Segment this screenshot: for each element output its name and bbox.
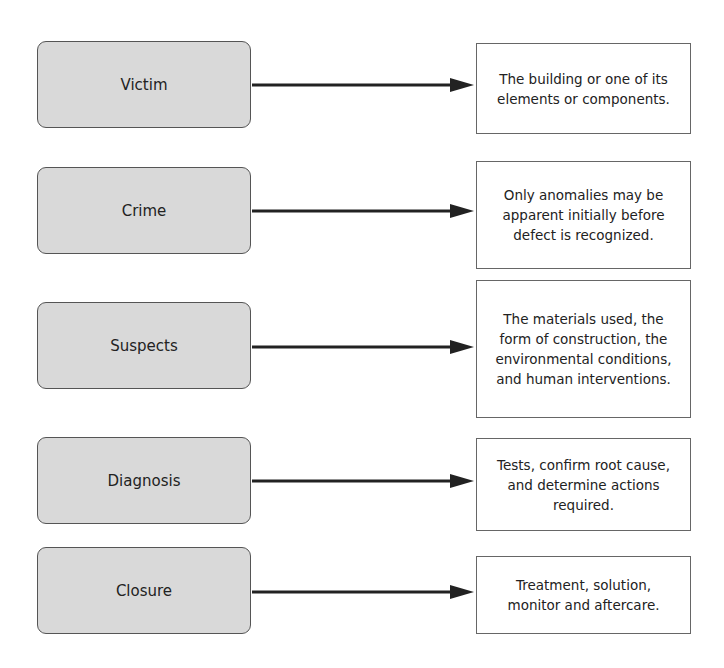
stage-box-victim: Victim bbox=[37, 41, 251, 128]
stage-box-crime: Crime bbox=[37, 167, 251, 254]
stage-box-closure: Closure bbox=[37, 547, 251, 634]
description-text: The materials used, the form of construc… bbox=[489, 309, 678, 389]
arrow-icon bbox=[252, 78, 474, 92]
description-text: Treatment, solution, monitor and afterca… bbox=[489, 575, 678, 615]
arrow-icon bbox=[252, 340, 474, 354]
description-box-victim: The building or one of its elements or c… bbox=[476, 43, 691, 134]
description-text: Only anomalies may be apparent initially… bbox=[489, 185, 678, 245]
description-box-suspects: The materials used, the form of construc… bbox=[476, 280, 691, 418]
stage-label: Suspects bbox=[110, 337, 178, 355]
stage-label: Victim bbox=[120, 76, 167, 94]
stage-label: Closure bbox=[116, 582, 172, 600]
stage-label: Crime bbox=[122, 202, 167, 220]
arrow-icon bbox=[252, 474, 474, 488]
description-box-crime: Only anomalies may be apparent initially… bbox=[476, 161, 691, 269]
description-box-closure: Treatment, solution, monitor and afterca… bbox=[476, 556, 691, 634]
description-text: Tests, confirm root cause, and determine… bbox=[489, 455, 678, 515]
arrow-icon bbox=[252, 204, 474, 218]
description-text: The building or one of its elements or c… bbox=[489, 69, 678, 109]
arrow-icon bbox=[252, 585, 474, 599]
stage-box-diagnosis: Diagnosis bbox=[37, 437, 251, 524]
description-box-diagnosis: Tests, confirm root cause, and determine… bbox=[476, 438, 691, 531]
stage-box-suspects: Suspects bbox=[37, 302, 251, 389]
stage-label: Diagnosis bbox=[108, 472, 181, 490]
